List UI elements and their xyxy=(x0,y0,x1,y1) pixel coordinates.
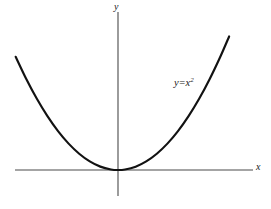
equation-variable: y xyxy=(174,77,179,88)
equation-exponent: 2 xyxy=(190,75,194,83)
parabola-figure: y x y=x2 xyxy=(0,0,271,209)
plot-canvas xyxy=(0,0,271,209)
parabola-curve xyxy=(16,36,229,170)
curve-equation-label: y=x2 xyxy=(174,78,194,89)
y-axis-label: y xyxy=(114,2,118,12)
x-axis-label: x xyxy=(256,162,260,172)
equation-operator: = xyxy=(179,77,186,88)
